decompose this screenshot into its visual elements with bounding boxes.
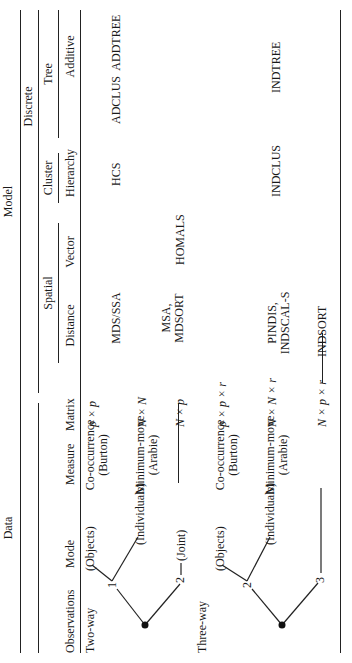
branch-1: 1	[106, 582, 119, 588]
cell-homals: HOMALS	[174, 214, 187, 265]
matrix-6: N × p × r	[316, 380, 329, 427]
measure-minmove-2: Minimum-move(Arabie)	[264, 415, 290, 495]
mode-objects-2: (Objects)	[214, 526, 227, 571]
cell-msa-mdsort: MSA,MDSORT	[160, 273, 186, 363]
cell-mds-ssa: MDS/SSA	[110, 273, 123, 363]
cell-indtree: INDTREE	[270, 42, 283, 93]
root-node-two-way	[142, 622, 149, 629]
mode-joint: (Joint)	[175, 530, 188, 561]
matrix-5: N × N × r	[266, 378, 279, 427]
matrix-3: N × p	[174, 399, 187, 427]
rotated-table: Data Model Spatial Discrete Cluster Tree…	[0, 0, 352, 663]
branch-2-two-way: 2	[174, 577, 187, 583]
root-node-three-way	[279, 622, 286, 629]
matrix-1: p × p	[86, 401, 99, 427]
measure-cooccurrence-2: Co-occurrence(Burton)	[214, 415, 240, 495]
cell-indsort: INDSORT	[316, 306, 329, 357]
measure-minmove-1: Minimum-move(Arabie)	[134, 415, 160, 495]
branch-3: 3	[314, 577, 327, 583]
matrix-4: p × p × r	[216, 382, 229, 427]
branch-2-three-way: 2	[241, 582, 254, 588]
cell-adclus-addtree: ADCLUS ADDTREE	[110, 15, 123, 124]
measure-cooccurrence-1: Co-occurrence(Burton)	[84, 415, 110, 495]
cell-pindis-indscal: PINDIS,INDSCAL-S	[266, 273, 292, 373]
cell-indclus: INDCLUS	[270, 145, 283, 197]
cell-hcs: HCS	[110, 163, 123, 186]
matrix-2: N × N	[136, 397, 149, 427]
mode-objects-1: (Objects)	[84, 526, 97, 571]
